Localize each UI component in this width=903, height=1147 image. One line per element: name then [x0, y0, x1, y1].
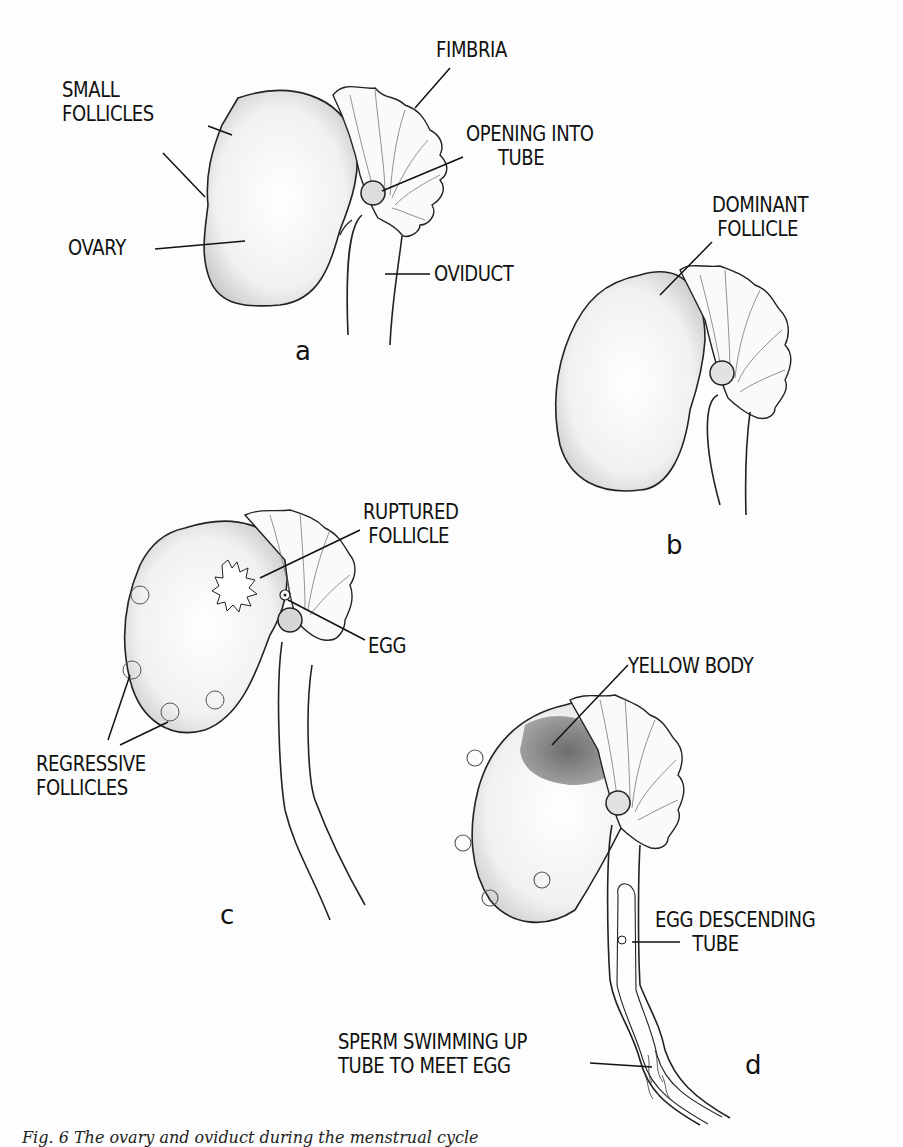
panel-letter-a: a — [295, 336, 311, 366]
label-ruptured-follicle: RUPTURED FOLLICLE — [363, 500, 458, 548]
label-dominant-follicle: DOMINANT FOLLICLE — [712, 193, 808, 241]
label-egg: EGG — [368, 634, 406, 658]
label-oviduct: OVIDUCT — [434, 262, 513, 286]
tube-opening — [606, 791, 630, 815]
label-sperm-swimming-up: SPERM SWIMMING UP TUBE TO MEET EGG — [338, 1030, 527, 1078]
label-fimbria: FIMBRIA — [436, 38, 507, 62]
follicle — [455, 835, 471, 851]
follicle — [467, 750, 483, 766]
label-yellow-body: YELLOW BODY — [628, 654, 753, 678]
panel-letter-c: c — [220, 900, 234, 930]
panel-letter-b: b — [666, 530, 683, 560]
label-ovary: OVARY — [68, 236, 126, 260]
label-regressive-follicles: REGRESSIVE FOLLICLES — [36, 752, 146, 800]
ovary-shape — [556, 272, 705, 491]
oviduct-wall — [608, 825, 730, 1125]
descending-egg — [618, 936, 626, 944]
ovary-shape — [204, 91, 357, 306]
tube-opening — [361, 181, 385, 205]
tube-opening — [710, 361, 734, 385]
panel-a-drawing — [204, 87, 447, 345]
figure-caption: Fig. 6 The ovary and oviduct during the … — [22, 1128, 478, 1147]
panel-b-drawing — [556, 266, 791, 515]
oviduct — [279, 642, 365, 920]
oviduct — [347, 215, 402, 345]
oviduct — [707, 395, 750, 515]
label-small-follicles: SMALL FOLLICLES — [62, 78, 154, 126]
tube-opening — [278, 608, 302, 632]
label-opening-into-tube: OPENING INTO TUBE — [466, 122, 594, 170]
label-egg-descending-tube: EGG DESCENDING TUBE — [655, 908, 815, 956]
panel-letter-d: d — [745, 1050, 762, 1080]
panel-c-drawing — [123, 510, 365, 920]
